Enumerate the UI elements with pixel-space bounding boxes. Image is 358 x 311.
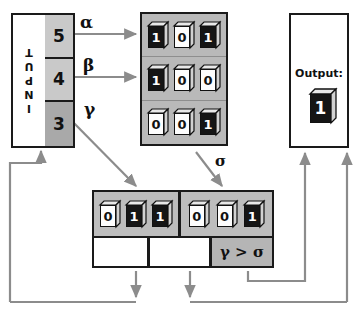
input-cell-1[interactable]: 4 <box>45 59 73 103</box>
bit-value: 1 <box>126 205 142 227</box>
bottom-subcell-1[interactable] <box>149 238 211 268</box>
bit-cube[interactable]: 1 <box>152 201 172 227</box>
bit-cube[interactable]: 0 <box>100 201 120 227</box>
arrow-gamma <box>67 116 136 186</box>
bit-value: 0 <box>189 205 205 227</box>
comparison-text: γ > σ <box>220 243 264 261</box>
register-row-beta: 1 0 0 <box>142 57 226 100</box>
bit-value: 1 <box>152 205 168 227</box>
register-row-alpha: 1 0 1 <box>142 14 226 57</box>
bit-cube[interactable]: 0 <box>217 201 237 227</box>
bottom-group-gamma: 0 1 1 <box>92 190 180 238</box>
bit-cube[interactable]: 0 <box>174 22 194 48</box>
bit-value: 0 <box>174 26 190 48</box>
bit-value: 0 <box>174 69 190 91</box>
label-beta: β <box>83 55 94 75</box>
bit-value: 1 <box>148 69 164 91</box>
bit-cube[interactable]: 1 <box>244 201 264 227</box>
bottom-subcell-0[interactable] <box>92 238 149 268</box>
input-cell-2[interactable]: 3 <box>45 102 73 146</box>
bottom-register-block: 0 1 1 0 0 1 <box>92 190 274 268</box>
label-alpha: α <box>80 12 93 32</box>
bit-value: 0 <box>174 113 190 135</box>
input-cell-0[interactable]: 5 <box>45 15 73 59</box>
bit-cube[interactable]: 1 <box>200 109 220 135</box>
input-block: INPUT 5 4 3 <box>11 13 75 148</box>
output-bit-value: 1 <box>310 94 331 123</box>
label-sigma: σ <box>215 152 226 170</box>
bit-value: 1 <box>244 205 260 227</box>
comparison-cell[interactable]: γ > σ <box>211 238 274 268</box>
bit-cube[interactable]: 0 <box>189 201 209 227</box>
output-title: Output: <box>291 67 347 80</box>
bit-value: 1 <box>148 26 164 48</box>
register-row-sigma: 0 0 1 <box>142 101 226 144</box>
bit-cube[interactable]: 0 <box>200 65 220 91</box>
bottom-group-sigma: 0 0 1 <box>180 190 274 238</box>
bit-value: 0 <box>200 69 216 91</box>
bit-cube[interactable]: 0 <box>174 65 194 91</box>
output-bit-cube[interactable]: 1 <box>310 89 330 115</box>
register-grid: 1 0 1 1 0 0 <box>140 12 228 146</box>
bit-value: 1 <box>200 26 216 48</box>
bit-cube[interactable]: 0 <box>174 109 194 135</box>
bit-cube[interactable]: 1 <box>126 201 146 227</box>
label-gamma: γ <box>84 99 95 119</box>
arrow-feedback-input <box>10 151 41 302</box>
bit-cube[interactable]: 0 <box>148 109 168 135</box>
bit-value: 0 <box>100 205 116 227</box>
bit-value: 1 <box>200 113 216 135</box>
diagram-canvas: INPUT 5 4 3 α β γ σ 1 0 1 1 <box>0 0 358 311</box>
bit-cube[interactable]: 1 <box>148 65 168 91</box>
input-label: INPUT <box>13 15 45 146</box>
bit-cube[interactable]: 1 <box>148 22 168 48</box>
bit-cube[interactable]: 1 <box>200 22 220 48</box>
bit-value: 0 <box>217 205 233 227</box>
output-block: Output: 1 <box>289 13 349 148</box>
bit-value: 0 <box>148 113 164 135</box>
